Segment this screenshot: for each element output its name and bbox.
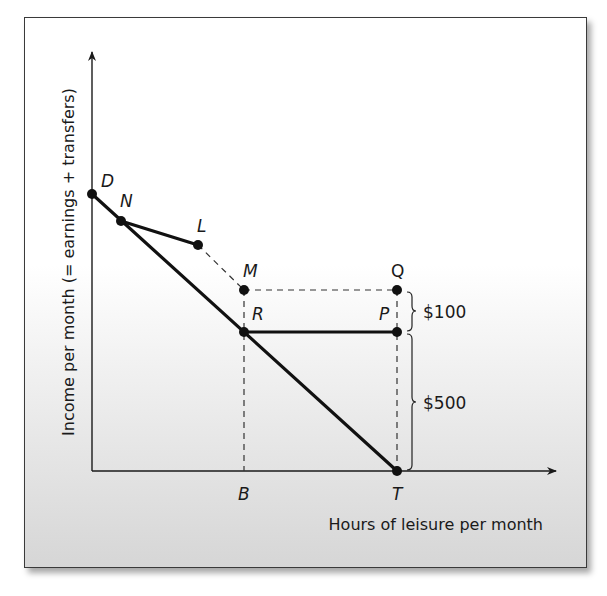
point-l bbox=[193, 240, 203, 250]
x-axis-title: Hours of leisure per month bbox=[329, 515, 543, 534]
dashed-guides bbox=[198, 245, 397, 471]
brace-label-100: $100 bbox=[423, 302, 466, 322]
income-leisure-diagram: D N L M Q R P B T $100 $500 Hours of lei… bbox=[0, 0, 607, 596]
label-l: L bbox=[197, 216, 206, 236]
point-n bbox=[116, 216, 126, 226]
label-p: P bbox=[379, 304, 390, 324]
label-d: D bbox=[101, 171, 114, 191]
point-p bbox=[392, 327, 402, 337]
tick-t: T bbox=[392, 484, 404, 504]
point-t bbox=[392, 466, 402, 476]
braces bbox=[407, 292, 416, 470]
point-d bbox=[87, 189, 97, 199]
label-r: R bbox=[252, 304, 264, 324]
label-m: M bbox=[243, 261, 258, 281]
point-q bbox=[392, 285, 402, 295]
y-axis-title: Income per month (= earnings + transfers… bbox=[59, 88, 78, 436]
label-n: N bbox=[120, 191, 133, 211]
point-r bbox=[239, 327, 249, 337]
tick-b: B bbox=[238, 484, 250, 504]
label-q: Q bbox=[391, 261, 404, 281]
point-m bbox=[239, 285, 249, 295]
brace-label-500: $500 bbox=[423, 393, 466, 413]
